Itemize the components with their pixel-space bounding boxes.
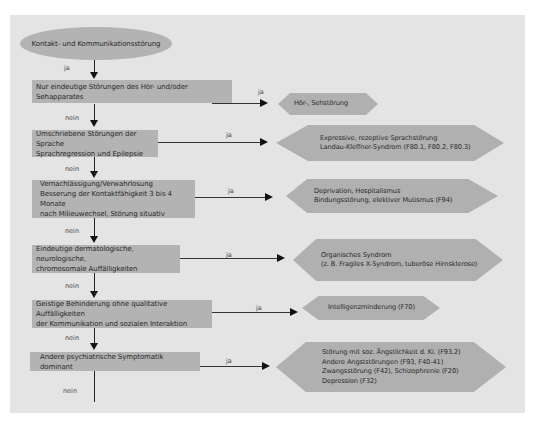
edge-label-ja: ja [256, 304, 262, 312]
decision-node-1: Nur eindeutige Störungen des Hör- und/od… [32, 80, 232, 103]
arrow-down-icon [90, 291, 98, 298]
decision-node-2: Umschriebene Störungen der Sprache Sprac… [32, 130, 158, 157]
arrow-down-icon [90, 171, 98, 178]
edge-label-nein: nein [65, 114, 79, 122]
edge-label-ja: ja [226, 251, 232, 259]
outcome-text: Landau-Kleffner-Syndrom (F80.1, F80.2, F… [320, 143, 504, 153]
connector [94, 328, 95, 344]
connector [94, 218, 95, 237]
arrow-down-icon [90, 72, 98, 79]
connector [195, 197, 267, 198]
outcome-node-4: Organisches Syndrom (z. B. Fragiles X-Sy… [293, 239, 503, 281]
arrow-right-icon [260, 99, 268, 107]
connector [94, 273, 95, 292]
edge-label-nein: nein [65, 227, 79, 235]
decision-text: nach Milieuwechsel, Störung situativ [40, 209, 191, 219]
arrow-right-icon [265, 193, 273, 201]
outcome-text: Depression (F32) [322, 377, 506, 387]
start-node: Kontakt- und Kommunikationsstörung [20, 27, 172, 60]
edge-label-ja: ja [228, 187, 234, 195]
edge-label-ja: ja [226, 131, 232, 139]
outcome-node-3: Deprivation, Hospitalismus Bindungsstöru… [286, 179, 498, 213]
decision-node-3: Vernachlässigung/Verwahrlosung Besserung… [32, 180, 195, 218]
outcome-text: Störung mit soz. Ängstlichkeit d. Ki. (F… [322, 348, 506, 358]
outcome-text: Bindungsstörung, elektiver Mutismus (F94… [314, 196, 498, 206]
decision-text: chromosomale Auffälligkeiten [36, 264, 176, 274]
outcome-text: Hör-, Sehstörung [294, 99, 378, 109]
outcome-text: Expressive, rezeptive Sprachstörung [320, 134, 504, 144]
decision-node-5: Geistige Behinderung ohne qualitative Au… [32, 300, 212, 328]
start-node-label: Kontakt- und Kommunikationsstörung [32, 40, 161, 48]
decision-text: Andere psychiatrische Symptomatik domina… [40, 352, 196, 372]
edge-label-nein: nein [63, 387, 77, 395]
decision-text: Vernachlässigung/Verwahrlosung [40, 179, 191, 189]
arrow-right-icon [290, 308, 298, 316]
outcome-text: Intelligenzminderung (F70) [328, 303, 440, 313]
edge-label-nein: nein [65, 334, 79, 342]
arrow-down-icon [90, 236, 98, 243]
outcome-node-5: Intelligenzminderung (F70) [302, 296, 440, 320]
outcome-text: Zwangsstörung (F42), Schizophrenie (F20) [322, 367, 506, 377]
arrow-right-icon [262, 362, 270, 370]
decision-text: Besserung der Kontaktfähigkeit 3 bis 4 M… [40, 189, 191, 209]
decision-text: Eindeutige dermatologische, neurologisch… [36, 244, 176, 264]
connector [158, 142, 262, 143]
arrow-right-icon [277, 254, 285, 262]
outcome-text: Deprivation, Hospitalismus [314, 187, 498, 197]
decision-node-4: Eindeutige dermatologische, neurologisch… [32, 245, 180, 273]
connector [94, 371, 95, 402]
outcome-node-6: Störung mit soz. Ängstlichkeit d. Ki. (F… [276, 342, 506, 392]
decision-text: Sprachregression und Epilepsie [36, 149, 154, 159]
outcome-text: (z. B. Fragiles X-Syndrom, tuberöse Hirn… [321, 260, 503, 270]
edge-label-ja: ja [258, 88, 264, 96]
decision-text: Geistige Behinderung ohne qualitative Au… [36, 299, 208, 319]
connector [94, 104, 95, 121]
decision-node-6: Andere psychiatrische Symptomatik domina… [30, 352, 200, 371]
connector [94, 157, 95, 172]
decision-text: Nur eindeutige Störungen des Hör- und/od… [36, 82, 228, 102]
arrow-down-icon [90, 343, 98, 350]
outcome-node-2: Expressive, rezeptive Sprachstörung Land… [276, 125, 504, 161]
arrow-down-icon [90, 120, 98, 127]
decision-text: Umschriebene Störungen der Sprache [36, 129, 154, 149]
connector [200, 366, 264, 367]
edge-label-nein: nein [65, 165, 79, 173]
outcome-node-1: Hör-, Sehstörung [278, 93, 378, 115]
edge-label-ja: ja [226, 357, 232, 365]
outcome-text: Andere Angststörungen (F93, F40-41) [322, 358, 506, 368]
arrow-right-icon [260, 138, 268, 146]
connector [212, 103, 262, 104]
connector [212, 312, 296, 313]
edge-label-ja: ja [64, 64, 70, 72]
outcome-text: Organisches Syndrom [321, 251, 503, 261]
edge-label-nein: nein [65, 282, 79, 290]
decision-text: der Kommunikation und sozialen Interakti… [36, 319, 208, 329]
